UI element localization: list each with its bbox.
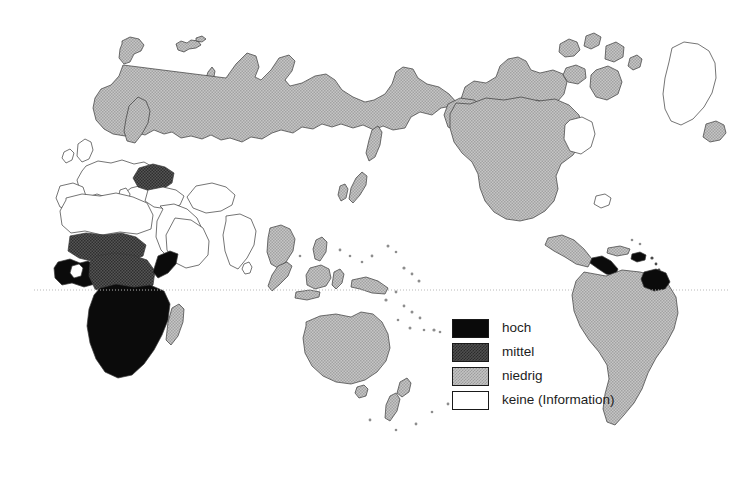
legend-label-mittel: mittel — [502, 345, 534, 359]
legend-row-keine: keine (Information) — [452, 388, 642, 412]
legend-label-niedrig: niedrig — [502, 369, 543, 383]
landmass-west-africa-enclave — [70, 264, 83, 278]
legend-swatch-keine — [452, 391, 489, 410]
landmass-north-africa — [60, 193, 153, 235]
legend-label-hoch: hoch — [502, 321, 531, 335]
legend-label-keine: keine (Information) — [502, 393, 615, 407]
legend-row-hoch: hoch — [452, 316, 642, 340]
legend-row-mittel: mittel — [452, 340, 642, 364]
map-legend: hoch mittel niedrig keine (Information) — [452, 316, 642, 412]
world-map-figure: hoch mittel niedrig keine (Information) — [0, 0, 754, 478]
legend-row-niedrig: niedrig — [452, 364, 642, 388]
legend-swatch-niedrig — [452, 367, 489, 386]
landmass-hispaniola — [631, 252, 646, 262]
legend-swatch-hoch — [452, 319, 489, 338]
legend-swatch-mittel — [452, 343, 489, 362]
